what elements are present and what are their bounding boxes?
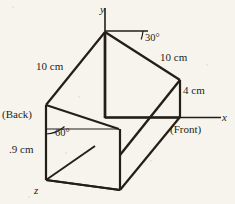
face-label-back: (Back) xyxy=(2,109,32,120)
scan-speckle xyxy=(206,64,208,66)
axis-label-y: y xyxy=(100,4,105,15)
dimension-label-right-slant: 10 cm xyxy=(160,52,187,63)
figure-container: y x z 30° 60° 10 cm 10 cm 4 cm .9 cm (Ba… xyxy=(0,0,235,204)
scan-speckle xyxy=(12,6,14,8)
dimension-label-left-vertical: .9 cm xyxy=(9,144,33,155)
face-label-front: (Front) xyxy=(170,124,201,135)
scan-speckle xyxy=(150,160,152,162)
axis-label-z: z xyxy=(34,185,38,196)
dimension-label-left-slant: 10 cm xyxy=(36,61,63,72)
scan-speckle xyxy=(78,96,80,98)
scan-speckle xyxy=(65,152,67,154)
prism-diagram-svg xyxy=(0,0,235,204)
angle-label-30: 30° xyxy=(145,33,160,44)
z-axis-line xyxy=(46,146,95,180)
axis-label-x: x xyxy=(222,112,227,123)
edge-z-to-lower-front xyxy=(46,180,120,190)
scan-speckle xyxy=(28,196,30,198)
angle-30-arc xyxy=(141,31,143,40)
dimension-label-right-vertical: 4 cm xyxy=(183,85,205,96)
angle-label-60: 60° xyxy=(55,128,70,139)
